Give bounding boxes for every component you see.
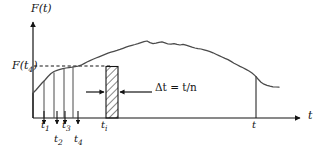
delta-t-annotation: Δt = t/n (155, 82, 197, 93)
hatched-strip (106, 67, 118, 119)
f-t4-value-label: F(t4) (12, 60, 37, 71)
x-axis-label-text: t (308, 109, 312, 122)
f-t4-close: ) (33, 59, 37, 72)
figure-container: F(t) t F(t4) Δt = t/n t1 t2 t3 t4 ti t (0, 0, 322, 156)
y-axis-label-text: F(t) (31, 2, 52, 15)
f-t4-subscript: 4 (28, 65, 33, 74)
tick-label-t3-sub: 3 (66, 124, 71, 133)
f-t4-base: F(t (12, 59, 28, 72)
tick-label-t-final: t (252, 120, 256, 130)
tick-label-t-final-base: t (252, 119, 256, 130)
y-axis-label: F(t) (31, 3, 52, 14)
tick-label-t2: t2 (54, 134, 63, 144)
tick-label-ti: ti (101, 120, 107, 130)
tick-label-t1: t1 (41, 120, 50, 130)
x-axis-label: t (308, 110, 312, 121)
strip-divider-lines (44, 67, 73, 118)
tick-label-t4: t4 (74, 134, 83, 144)
tick-label-t1-sub: 1 (45, 124, 50, 133)
tick-label-t3: t3 (62, 120, 71, 130)
delta-t-annotation-text: Δt = t/n (155, 81, 197, 93)
tick-label-t2-sub: 2 (58, 138, 63, 147)
tick-label-t4-sub: 4 (78, 138, 83, 147)
